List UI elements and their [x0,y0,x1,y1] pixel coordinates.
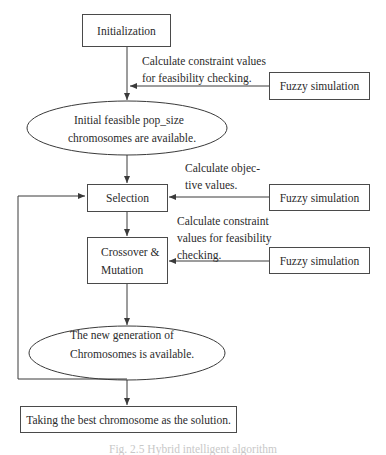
annotation-constraint-values-2-line1: Calculate constraint [177,213,272,230]
annotation-constraint-values-2-line3: checking. [177,247,272,264]
node-crossover-mutation-line2: Mutation [101,261,143,279]
annotation-constraint-values-1: Calculate constraint values for feasibil… [142,53,266,87]
node-selection-label: Selection [106,189,149,207]
annotation-objective-values: Calculate objec- tive values. [185,160,260,194]
node-fuzzy-simulation-3-label: Fuzzy simulation [280,252,360,270]
node-new-generation-line1: The new generation of [70,326,220,344]
node-fuzzy-simulation-3: Fuzzy simulation [269,247,370,274]
node-initial-population-line2: chromosomes are available. [68,129,218,147]
figure-caption: Fig. 2.5 Hybrid intelligent algorithm [0,443,386,455]
node-initialization: Initialization [82,14,171,47]
annotation-constraint-values-2-line2: values for feasibility [177,230,272,247]
node-fuzzy-simulation-1-label: Fuzzy simulation [280,77,360,95]
node-initial-population-text: Initial feasible pop_size chromosomes ar… [68,111,218,147]
node-initialization-label: Initialization [97,22,156,40]
annotation-constraint-values-1-line2: for feasibility checking. [142,70,266,87]
node-crossover-mutation: Crossover & Mutation [87,237,168,284]
node-best-solution-label: Taking the best chromosome as the soluti… [26,411,231,429]
annotation-objective-values-line2: tive values. [185,177,260,194]
node-crossover-mutation-line1: Crossover & [101,243,159,261]
node-new-generation-line2: Chromosomes is available. [70,345,220,363]
node-selection: Selection [87,184,168,212]
node-initial-population-line1: Initial feasible pop_size [68,111,218,129]
node-fuzzy-simulation-1: Fuzzy simulation [269,72,370,100]
annotation-objective-values-line1: Calculate objec- [185,160,260,177]
annotation-constraint-values-1-line1: Calculate constraint values [142,53,266,70]
node-best-solution: Taking the best chromosome as the soluti… [20,406,237,433]
annotation-constraint-values-2: Calculate constraint values for feasibil… [177,213,272,264]
node-fuzzy-simulation-2: Fuzzy simulation [269,184,370,211]
node-fuzzy-simulation-2-label: Fuzzy simulation [280,189,360,207]
node-new-generation-text: The new generation of Chromosomes is ava… [70,326,220,363]
